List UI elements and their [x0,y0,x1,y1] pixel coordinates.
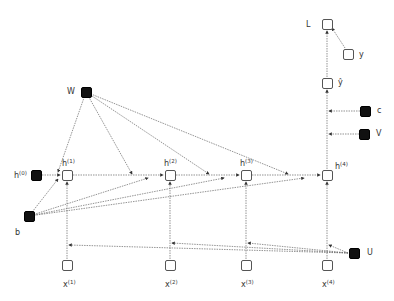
hidden-node-h2 [165,170,176,181]
input-node-x3 [241,260,252,271]
label-h2: h(2) [164,159,177,168]
input-node-x2 [165,260,176,271]
label-x2: x(2) [165,280,178,289]
label-h1: h(1) [62,159,75,168]
param-node-v [359,129,370,140]
param-node-c [360,106,371,117]
label-w: W [67,88,75,96]
label-h4: h(4) [335,162,348,171]
graph-edges [0,0,394,301]
param-node-w [81,87,92,98]
label-v: V [376,130,381,138]
param-node-u [349,248,360,259]
input-node-x4 [322,260,333,271]
hidden-node-h4 [322,170,333,181]
label-u: U [367,249,373,257]
loss-node [322,19,333,30]
label-x4: x(4) [322,280,335,289]
output-node-yhat [322,78,333,89]
param-node-b [24,211,35,222]
label-x3: x(3) [241,280,254,289]
label-c: c [377,107,381,115]
target-node-y [343,49,354,60]
label-yhat: ŷ [338,79,343,87]
hidden-node-h3 [241,170,252,181]
param-node-h0 [31,170,42,181]
hidden-node-h1 [62,170,73,181]
label-h0: h(0) [14,171,27,180]
label-b: b [15,229,20,237]
label-x1: x(1) [63,280,76,289]
label-h3: h(3) [240,159,253,168]
label-y: y [359,51,364,59]
label-l: L [306,21,310,29]
input-node-x1 [62,260,73,271]
